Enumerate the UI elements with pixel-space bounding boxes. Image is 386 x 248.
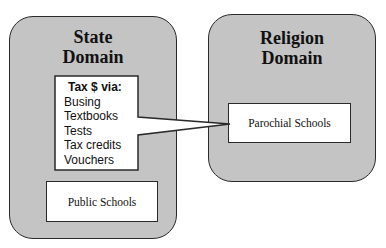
callout-item: Vouchers	[64, 153, 137, 168]
tax-callout: Tax $ via: Busing Textbooks Tests Tax cr…	[56, 77, 137, 169]
callout-item: Tax credits	[64, 138, 137, 153]
callout-item: Tests	[64, 124, 137, 139]
callout-item: Busing	[64, 95, 137, 110]
callout-item: Textbooks	[64, 109, 137, 124]
callout-heading: Tax $ via:	[64, 80, 137, 95]
